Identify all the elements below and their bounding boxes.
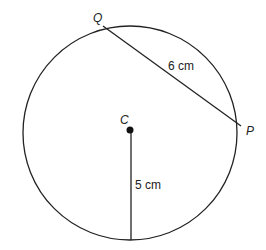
point-label-c: C [120, 113, 129, 127]
radius-length-label: 5 cm [135, 178, 161, 192]
center-point [127, 127, 134, 134]
chord-length-label: 6 cm [168, 59, 194, 73]
point-label-p: P [246, 124, 254, 138]
circle-diagram: Q P C 6 cm 5 cm [0, 0, 266, 250]
point-label-q: Q [93, 11, 102, 25]
